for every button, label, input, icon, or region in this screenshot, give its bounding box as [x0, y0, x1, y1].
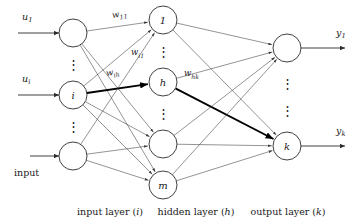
connection-edge	[80, 45, 155, 172]
hidden-ellipsis: ⋮	[157, 44, 170, 59]
weight-label-wih: wih	[105, 66, 120, 79]
connection-edge	[87, 22, 148, 31]
input-node-i-label: i	[71, 90, 74, 101]
connection-edge	[81, 33, 155, 145]
input-layer-caption: input layer (i)	[77, 206, 143, 217]
output-arrow-y1-label: y1	[335, 27, 346, 40]
input-ellipsis: ⋮	[67, 119, 80, 134]
output-arrow-yk-label: yk	[335, 125, 346, 138]
connection-edge	[175, 88, 273, 139]
connection-edge	[86, 160, 148, 180]
hidden-ellipsis: ⋮	[157, 106, 170, 121]
connection-edge	[87, 146, 148, 154]
vertical-ellipses-group: ⋮⋮⋮⋮⋮⋮	[67, 44, 294, 134]
connection-edge	[83, 105, 152, 174]
nodes-group: i1hmk	[59, 6, 301, 199]
hidden-node-h-label: h	[160, 77, 166, 88]
connection-edge	[173, 30, 277, 135]
output-node-1	[273, 34, 301, 62]
connection-edge	[85, 102, 149, 137]
input-ellipsis: ⋮	[67, 57, 80, 72]
input-arrow-ui-label: ui	[22, 73, 30, 86]
weight-label-whk: whk	[184, 68, 199, 79]
weight-label-w11: w11	[111, 8, 128, 22]
input-node-1	[59, 19, 87, 47]
neural-network-diagram: i1hmk ⋮⋮⋮⋮⋮⋮ w11wi1wihwhk u1uiinputy1yk …	[0, 0, 357, 221]
output-ellipsis: ⋮	[281, 76, 294, 91]
input-arrow-input-label: input	[14, 167, 39, 178]
output-node-k-label: k	[284, 141, 290, 152]
weight-label-wi1: wi1	[131, 47, 144, 58]
edges-input-to-hidden	[80, 22, 155, 180]
output-ellipsis: ⋮	[281, 103, 294, 118]
input-node-last	[59, 142, 87, 170]
hidden-layer-caption: hidden layer (h)	[158, 206, 235, 217]
input-arrow-u1-label: u1	[22, 11, 32, 24]
connection-edge	[177, 144, 272, 146]
hidden-node-m-label: m	[158, 180, 167, 191]
output-layer-caption: output layer (k)	[250, 206, 325, 217]
hidden-node-blank	[149, 130, 177, 158]
diagram-canvas: i1hmk ⋮⋮⋮⋮⋮⋮ w11wi1wihwhk u1uiinputy1yk …	[0, 0, 357, 221]
edges-hidden-to-output	[172, 23, 276, 181]
connection-edge	[176, 151, 272, 181]
layer-captions-group: input layer (i)hidden layer (h)output la…	[77, 206, 326, 217]
connection-edge	[177, 23, 273, 45]
hidden-node-1-label: 1	[160, 15, 166, 26]
